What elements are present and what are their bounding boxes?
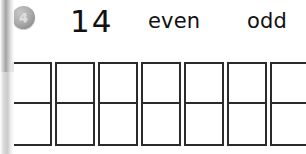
answer-box-cell[interactable]: [272, 64, 306, 104]
answer-box-column: [227, 62, 267, 146]
item-number-badge: 4: [12, 6, 35, 29]
answer-box-cell[interactable]: [186, 64, 222, 104]
answer-box-column: [184, 62, 224, 146]
answer-box-cell[interactable]: [229, 104, 265, 144]
answer-box-cell[interactable]: [143, 64, 179, 104]
answer-box-column: [270, 62, 306, 146]
answer-box-cell[interactable]: [57, 104, 93, 144]
answer-box-cell[interactable]: [57, 64, 93, 104]
item-number-badge-label: 4: [19, 11, 28, 24]
answer-box-cell[interactable]: [143, 104, 179, 144]
answer-grid: [0, 62, 306, 148]
answer-box-cell[interactable]: [229, 64, 265, 104]
answer-box-column: [12, 62, 52, 146]
choice-even[interactable]: even: [148, 9, 200, 34]
answer-box-cell[interactable]: [100, 64, 136, 104]
worksheet-page: 4 14 even odd: [0, 0, 306, 154]
choice-odd[interactable]: odd: [247, 9, 287, 34]
answer-box-column: [55, 62, 95, 146]
answer-box-cell[interactable]: [14, 64, 50, 104]
problem-header: 4 14 even odd: [0, 0, 306, 46]
answer-box-cell[interactable]: [186, 104, 222, 144]
answer-box-cell[interactable]: [100, 104, 136, 144]
answer-box-column: [98, 62, 138, 146]
answer-box-column: [141, 62, 181, 146]
answer-box-cell[interactable]: [14, 104, 50, 144]
problem-number: 14: [70, 2, 113, 40]
answer-box-cell[interactable]: [272, 104, 306, 144]
